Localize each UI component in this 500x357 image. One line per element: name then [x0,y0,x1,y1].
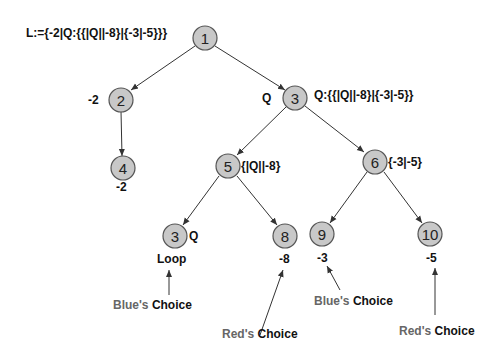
node-2-value: -2 [88,93,99,107]
annotation-blue-choice-1: Blue's Choice [113,298,192,312]
node-1: 1 [193,26,217,50]
game-tree-diagram: 1 2 3 4 5 6 3 8 9 10 L:={-2|Q:{{|Q||-8}|… [0,0,500,357]
node-10-value: -5 [426,251,437,265]
svg-text:8: 8 [281,228,289,245]
edges [121,46,422,225]
node-6-value: {-3|-5} [388,155,422,169]
svg-text:6: 6 [371,154,379,171]
svg-text:4: 4 [119,160,127,177]
edge-3-6 [305,106,364,152]
node-9-value: -3 [317,251,328,265]
node-8: 8 [273,224,297,248]
annotation-red-choice-2: Red's Choice [399,324,475,338]
svg-text:10: 10 [422,226,439,243]
annotation-arrow-2 [260,270,283,335]
svg-text:1: 1 [201,30,209,47]
node-4-value: -2 [116,180,127,194]
annotation-blue-choice-2: Blue's Choice [314,294,393,308]
loop-label: Loop [157,252,186,266]
node-2: 2 [109,88,133,112]
edge-1-3 [215,46,285,90]
game-value-label: L:={-2|Q:{{|Q||-8}|{-3|-5}}} [26,26,168,40]
annotation-arrow-3 [327,266,340,290]
edge-6-10 [384,172,422,223]
node-10: 10 [418,222,442,246]
node-3-name: Q [262,91,271,105]
edge-5-8 [237,176,277,225]
svg-text:5: 5 [224,158,232,175]
annotation-red-choice-1: Red's Choice [222,327,298,341]
edge-2-4 [121,111,122,156]
edge-1-2 [131,46,195,90]
node-3-value: Q:{{|Q||-8}|{-3|-5}} [314,88,414,102]
svg-text:3: 3 [291,90,299,107]
edge-3-5 [237,107,286,155]
edge-5-3b [183,176,219,225]
svg-text:3: 3 [171,228,179,245]
node-3: 3 [283,86,307,110]
node-5-value: {|Q||-8} [241,159,281,173]
edge-6-9 [330,172,367,223]
node-3-loop: 3 [163,224,187,248]
node-3-loop-name: Q [189,229,198,243]
node-5: 5 [216,154,240,178]
node-6: 6 [363,150,387,174]
node-8-value: -8 [279,252,290,266]
svg-text:2: 2 [117,92,125,109]
node-4: 4 [111,156,135,180]
node-9: 9 [310,222,334,246]
svg-text:9: 9 [318,226,326,243]
